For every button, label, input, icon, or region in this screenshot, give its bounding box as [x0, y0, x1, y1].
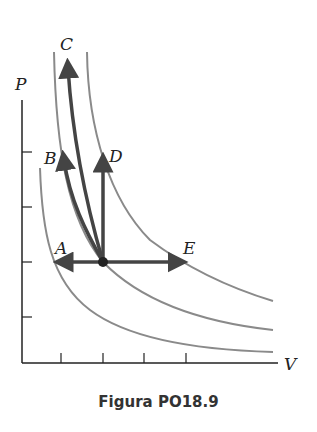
y-axis-label: P	[14, 74, 27, 94]
initial-state-point	[98, 257, 108, 267]
pv-diagram: P V C B D A E	[0, 0, 317, 432]
figure-caption: Figura PO18.9	[0, 393, 317, 411]
label-a: A	[53, 238, 67, 258]
label-b: B	[43, 148, 57, 168]
label-d: D	[108, 146, 123, 166]
label-e: E	[182, 238, 196, 258]
label-c: C	[60, 34, 73, 54]
x-axis-label: V	[284, 354, 298, 374]
